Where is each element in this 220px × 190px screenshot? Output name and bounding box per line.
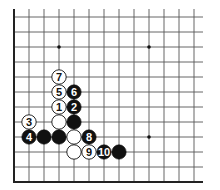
move-number-label: 10: [98, 146, 110, 158]
move-number-label: 3: [26, 116, 32, 128]
black-stone: 6: [67, 85, 81, 99]
white-stone-icon: [67, 130, 81, 144]
move-number-label: 9: [86, 146, 92, 158]
white-stone: 9: [82, 145, 96, 159]
black-stone: 4: [22, 130, 36, 144]
white-stone-icon: [67, 145, 81, 159]
black-stone: [52, 130, 66, 144]
black-stone-icon: [112, 145, 126, 159]
black-stone: 2: [67, 100, 81, 114]
white-stone: [52, 115, 66, 129]
black-stone: [67, 115, 81, 129]
move-number-label: 4: [26, 131, 33, 143]
white-stone: [67, 130, 81, 144]
move-number-label: 5: [56, 86, 62, 98]
white-stone: 5: [52, 85, 66, 99]
white-stone: 1: [52, 100, 66, 114]
black-stone: 8: [82, 130, 96, 144]
move-number-label: 7: [56, 71, 62, 83]
black-stone: [112, 145, 126, 159]
black-stone: 10: [97, 145, 111, 159]
go-board: 12345678910: [0, 0, 220, 190]
black-stone: [37, 130, 51, 144]
white-stone-icon: [52, 115, 66, 129]
move-number-label: 2: [71, 101, 77, 113]
move-number-label: 8: [86, 131, 92, 143]
move-number-label: 1: [56, 101, 62, 113]
star-point-icon: [147, 45, 151, 49]
black-stone-icon: [67, 115, 81, 129]
star-point-icon: [57, 45, 61, 49]
black-stone-icon: [52, 130, 66, 144]
white-stone: [67, 145, 81, 159]
black-stone-icon: [37, 130, 51, 144]
white-stone: 7: [52, 70, 66, 84]
move-number-label: 6: [71, 86, 77, 98]
white-stone: 3: [22, 115, 36, 129]
star-point-icon: [147, 135, 151, 139]
